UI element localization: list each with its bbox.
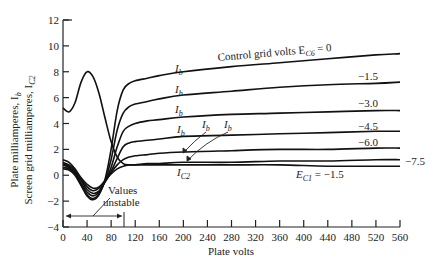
ib-label-6: Ib [223,118,232,133]
curve-series-1 [63,82,400,198]
x-tick-label: 440 [320,231,337,243]
ec1-label: EC1 = −1.5 [295,168,344,183]
x-tick-label: 200 [175,231,192,243]
y-axis-title-2: Screen grid milliamperes, IC2 [22,75,37,204]
x-tick-label: 480 [344,231,361,243]
svg-text:Control grid volts EC6 = 0: Control grid volts EC6 = 0 [217,41,333,66]
label-m30: −3.0 [358,97,378,109]
x-tick-label: 400 [295,231,312,243]
control-grid-label: Control grid volts EC6 = 0 [217,41,333,66]
curve-series-6 [63,72,400,167]
y-tick-label: −4 [47,221,59,233]
svg-text:Screen grid milliamperes, IC2: Screen grid milliamperes, IC2 [22,75,37,204]
y-tick-label: 4 [54,118,60,130]
y-tick-label: 12 [48,14,59,26]
unstable-annotation: Values unstable [66,184,140,227]
x-tick-label: 560 [392,231,409,243]
y-tick-label: 2 [54,143,60,155]
svg-text:unstable: unstable [103,196,140,208]
ib-label-4: Ib [176,123,185,138]
x-tick-label: 40 [82,231,94,243]
label-m15: −1.5 [358,70,378,82]
y-tick-label: 10 [48,40,60,52]
x-tick-label: 360 [271,231,288,243]
label-m60: −6.0 [358,136,378,148]
svg-text:Values: Values [108,184,137,196]
x-tick-label: 0 [60,231,66,243]
x-tick-label: 80 [106,231,118,243]
x-tick-label: 240 [199,231,216,243]
y-tick-label: 8 [54,66,60,78]
x-tick-label: 120 [127,231,144,243]
x-axis-title: Plate volts [208,245,254,257]
y-tick-label: −2 [47,195,59,207]
ib-label-3: Ib [174,103,183,118]
x-tick-label: 520 [368,231,385,243]
plate-characteristics-chart: −4−2024681012040801201602002402803203604… [0,0,434,260]
y-tick-label: 6 [54,92,60,104]
ib-label-5: Ib [201,118,210,133]
x-tick-label: 160 [151,231,168,243]
y-axis-title: Plate milliamperes, Ib [8,92,23,187]
label-m75: −7.5 [405,155,425,167]
ib-label-1: Ib [174,62,183,77]
x-tick-label: 320 [247,231,264,243]
ic2-label: IC2 [176,166,190,181]
svg-text:Plate milliamperes, Ib: Plate milliamperes, Ib [8,92,23,187]
label-m45: −4.5 [358,120,378,132]
y-tick-label: 0 [54,169,60,181]
x-tick-label: 280 [223,231,240,243]
